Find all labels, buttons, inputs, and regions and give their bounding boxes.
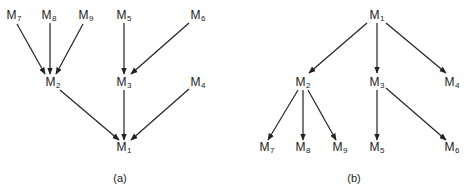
node-subscript: 6 [455, 146, 459, 155]
node-subscript: 8 [52, 14, 56, 23]
node-subscript: 5 [127, 14, 131, 23]
panel-caption-a: (a) [113, 172, 126, 184]
node-b-m9: M9 [333, 141, 348, 155]
node-label: M [445, 75, 455, 89]
arrow-b-m1-to-m4 [386, 23, 446, 73]
node-label: M [370, 75, 380, 89]
node-a-m4: M4 [191, 76, 206, 90]
node-a-m6: M6 [191, 9, 206, 23]
node-b-m8: M8 [296, 141, 311, 155]
node-label: M [117, 8, 127, 22]
arrow-a-m2-to-m1 [60, 90, 119, 140]
node-label: M [7, 8, 17, 22]
node-a-m1: M1 [117, 141, 132, 155]
node-label: M [117, 75, 127, 89]
node-subscript: 8 [306, 146, 310, 155]
node-b-m3: M3 [370, 76, 385, 90]
node-subscript: 2 [306, 81, 310, 90]
node-subscript: 1 [127, 146, 131, 155]
node-label: M [260, 140, 270, 154]
node-subscript: 3 [127, 81, 131, 90]
node-a-m3: M3 [117, 76, 132, 90]
node-subscript: 5 [380, 146, 384, 155]
node-subscript: 4 [201, 81, 205, 90]
node-label: M [191, 8, 201, 22]
node-subscript: 3 [380, 81, 384, 90]
node-subscript: 4 [455, 81, 459, 90]
arrow-a-m9-to-m2 [56, 24, 83, 74]
arrow-b-m1-to-m2 [309, 23, 367, 73]
node-subscript: 9 [89, 14, 93, 23]
node-label: M [370, 8, 380, 22]
node-subscript: 1 [380, 14, 384, 23]
node-a-m7: M7 [7, 9, 22, 23]
node-label: M [42, 8, 52, 22]
node-a-m5: M5 [117, 9, 132, 23]
node-b-m4: M4 [445, 76, 460, 90]
node-label: M [296, 75, 306, 89]
node-subscript: 9 [343, 146, 347, 155]
node-subscript: 7 [17, 14, 21, 23]
panel-caption-b: (b) [347, 172, 360, 184]
arrow-b-m2-to-m7 [268, 90, 298, 140]
arrow-a-m6-to-m3 [131, 23, 189, 74]
node-label: M [46, 75, 56, 89]
node-label: M [117, 140, 127, 154]
arrow-a-m7-to-m2 [17, 24, 45, 74]
node-a-m2: M2 [46, 76, 61, 90]
node-subscript: 7 [270, 146, 274, 155]
node-b-m2: M2 [296, 76, 311, 90]
node-label: M [370, 140, 380, 154]
node-label: M [333, 140, 343, 154]
arrow-b-m3-to-m6 [386, 88, 446, 140]
node-a-m8: M8 [42, 9, 57, 23]
arrow-b-m2-to-m9 [308, 90, 336, 140]
node-subscript: 2 [56, 81, 60, 90]
node-subscript: 6 [201, 14, 205, 23]
arrow-a-m4-to-m1 [131, 89, 189, 140]
node-label: M [191, 75, 201, 89]
node-label: M [79, 8, 89, 22]
node-b-m5: M5 [370, 141, 385, 155]
node-b-m7: M7 [260, 141, 275, 155]
node-b-m1: M1 [370, 9, 385, 23]
node-b-m6: M6 [445, 141, 460, 155]
node-label: M [445, 140, 455, 154]
node-a-m9: M9 [79, 9, 94, 23]
diagram-canvas [0, 0, 470, 187]
node-label: M [296, 140, 306, 154]
